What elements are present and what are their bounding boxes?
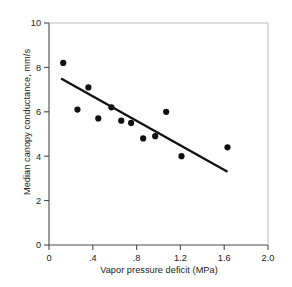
x-tick-label: 0 [46,253,51,263]
data-point [178,153,184,159]
data-point [140,135,146,141]
y-tick-label: 4 [36,152,41,162]
scatter-plot: 02468100.4.81.21.62.0 [0,0,292,287]
regression-line [61,79,227,172]
x-tick-label: 1.6 [218,253,231,263]
fit-line [61,79,227,172]
x-tick-label: .4 [89,253,97,263]
data-points [60,60,230,159]
y-axis-label: Median canopy conductance, mm/s [22,22,32,222]
y-tick-label: 2 [36,196,41,206]
x-tick-label: 2.0 [262,253,275,263]
y-tick-label: 10 [31,18,41,28]
x-axis-label: Vapor pressure deficit (MPa) [49,265,269,275]
data-point [152,133,158,139]
data-point [224,144,230,150]
data-point [163,109,169,115]
x-tick-label: 1.2 [174,253,187,263]
data-point [74,106,80,112]
y-tick-label: 8 [36,63,41,73]
data-point [128,120,134,126]
data-point [85,84,91,90]
data-point [60,60,66,66]
x-tick-label: .8 [133,253,141,263]
y-tick-label: 6 [36,107,41,117]
y-tick-label: 0 [36,240,41,250]
data-point [95,115,101,121]
figure: 02468100.4.81.21.62.0 Median canopy cond… [0,0,292,287]
axis-tick-labels: 02468100.4.81.21.62.0 [31,18,275,263]
data-point [118,118,124,124]
data-point [108,104,114,110]
